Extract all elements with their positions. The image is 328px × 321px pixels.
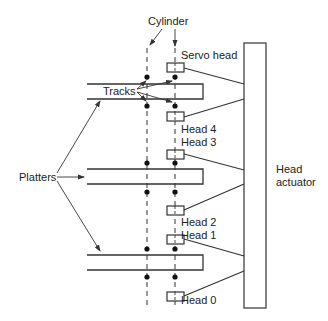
- disk-drive-diagram: Cylinder Tracks Platters: [0, 0, 328, 321]
- servo-head: [167, 63, 184, 72]
- platter-middle: [87, 169, 203, 184]
- head-arms: [184, 68, 244, 296]
- head-2: [167, 206, 184, 215]
- platters-label: Platters: [19, 171, 57, 183]
- actuator-label-line2: actuator: [276, 176, 316, 188]
- cylinder-label: Cylinder: [148, 15, 189, 27]
- platter-bottom: [87, 255, 203, 270]
- head-0-label: Head 0: [181, 294, 216, 306]
- head-actuator: [244, 43, 266, 308]
- head-1-label: Head 1: [181, 229, 216, 241]
- servo-head-label: Servo head: [181, 49, 237, 61]
- cylinder-arrow-left: [150, 29, 162, 45]
- head-4: [167, 112, 184, 121]
- tracks-label: Tracks: [103, 85, 136, 97]
- actuator-label-line1: Head: [276, 163, 302, 175]
- head-3-label: Head 3: [181, 136, 216, 148]
- head-4-label: Head 4: [181, 123, 216, 135]
- track-dots: [144, 74, 177, 279]
- head-2-label: Head 2: [181, 216, 216, 228]
- platters-arrows: [57, 101, 100, 251]
- head-3: [167, 150, 184, 159]
